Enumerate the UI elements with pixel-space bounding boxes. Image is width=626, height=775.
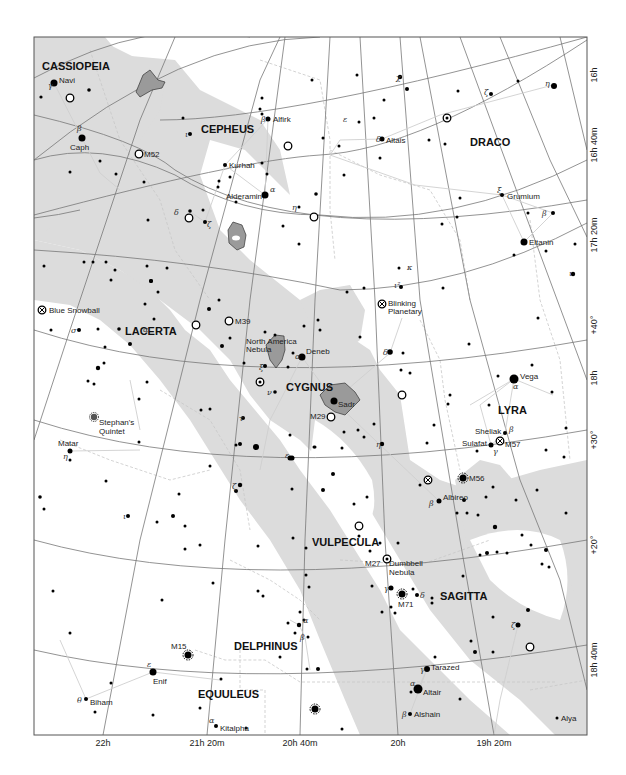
svg-text:ι: ι — [123, 512, 126, 521]
svg-text:22h: 22h — [95, 738, 110, 748]
star-tarazed — [424, 666, 430, 672]
open-cluster-icon — [310, 213, 318, 221]
star-kitalpha — [214, 724, 218, 728]
svg-text:δ: δ — [420, 591, 425, 600]
svg-text:Kurhah: Kurhah — [229, 161, 255, 170]
svg-text:α: α — [295, 352, 301, 361]
label-lacerta: LACERTA — [125, 325, 177, 337]
svg-text:γ: γ — [384, 584, 389, 593]
label-cassiopeia: CASSIOPEIA — [42, 60, 110, 72]
svg-text:18h 40m: 18h 40m — [589, 642, 599, 677]
star-alderamin — [262, 192, 269, 199]
svg-text:ι: ι — [185, 130, 188, 139]
svg-text:Sheliak: Sheliak — [475, 427, 502, 436]
svg-text:16h 40m: 16h 40m — [589, 127, 599, 162]
svg-text:β: β — [401, 710, 407, 719]
star-sadr — [331, 398, 338, 405]
svg-text:Altais: Altais — [386, 136, 406, 145]
svg-text:Nebula: Nebula — [389, 568, 415, 577]
star-alshain — [408, 712, 412, 716]
svg-text:19h 20m: 19h 20m — [476, 738, 511, 748]
svg-text:α: α — [410, 679, 416, 688]
open-cluster-icon — [355, 522, 363, 530]
open-cluster-icon — [192, 321, 200, 329]
svg-text:18h: 18h — [589, 370, 599, 385]
svg-text:η: η — [545, 79, 550, 88]
svg-text:M39: M39 — [235, 317, 251, 326]
svg-text:ξ: ξ — [259, 363, 264, 372]
open-cluster-icon — [526, 643, 534, 651]
svg-text:Deneb: Deneb — [306, 347, 330, 356]
svg-text:Navi: Navi — [59, 76, 75, 85]
svg-text:ε: ε — [343, 115, 347, 124]
svg-text:21h 20m: 21h 20m — [189, 738, 224, 748]
svg-text:β: β — [541, 209, 547, 218]
svg-text:Altair: Altair — [423, 688, 442, 697]
svg-text:ζ: ζ — [511, 621, 516, 630]
svg-text:+40°: +40° — [589, 315, 599, 334]
globular-cluster-icon — [310, 704, 320, 714]
open-cluster-icon — [284, 142, 292, 150]
right-axis-labels: 16h 16h 40m 17h 20m +40° 18h +30° +20° 1… — [589, 67, 599, 677]
svg-text:α: α — [209, 716, 215, 725]
svg-text:γ: γ — [48, 81, 53, 90]
svg-text:M15: M15 — [171, 642, 187, 651]
svg-text:γ: γ — [420, 665, 425, 674]
svg-text:σ: σ — [71, 326, 77, 335]
svg-text:Planetary: Planetary — [388, 307, 422, 316]
blinking-planetary-icon — [378, 300, 386, 308]
open-cluster-icon — [398, 391, 406, 399]
m52-icon — [135, 150, 143, 158]
svg-text:κ: κ — [406, 263, 413, 272]
star-eltanin — [521, 239, 528, 246]
svg-text:η: η — [292, 203, 297, 212]
star-albireo — [437, 499, 442, 504]
svg-text:20h: 20h — [390, 738, 405, 748]
star-matar — [68, 449, 73, 454]
svg-text:ν: ν — [267, 388, 272, 397]
star-alya — [556, 717, 559, 720]
m29-icon — [327, 413, 335, 421]
svg-text:ζ: ζ — [207, 220, 212, 229]
svg-text:Nebula: Nebula — [246, 345, 272, 354]
svg-text:Stephan's: Stephan's — [99, 418, 134, 427]
svg-text:Sadr: Sadr — [338, 400, 355, 409]
m15-icon — [183, 650, 193, 660]
svg-text:Albireo: Albireo — [443, 493, 468, 502]
label-cygnus: CYGNUS — [286, 381, 333, 393]
label-lyra: LYRA — [498, 404, 527, 416]
label-equuleus: EQUULEUS — [198, 688, 259, 700]
svg-text:ε: ε — [285, 451, 289, 460]
svg-text:20h 40m: 20h 40m — [282, 738, 317, 748]
svg-text:ι²: ι² — [394, 281, 400, 290]
svg-text:Biham: Biham — [90, 698, 113, 707]
svg-text:M29: M29 — [310, 412, 326, 421]
svg-text:17h 20m: 17h 20m — [589, 217, 599, 252]
svg-text:β: β — [260, 115, 266, 124]
svg-text:δ: δ — [376, 135, 381, 144]
svg-text:γ: γ — [493, 447, 498, 456]
star-kurhah — [223, 163, 227, 167]
label-draco: DRACO — [470, 136, 511, 148]
star-sheliak — [503, 431, 507, 435]
m39-icon — [225, 317, 233, 325]
m71-icon — [397, 589, 407, 599]
star-caph — [79, 135, 86, 142]
svg-text:α: α — [303, 616, 309, 625]
bottom-axis-labels: 22h 21h 20m 20h 40m 20h 19h 20m — [95, 738, 511, 748]
svg-text:ι: ι — [569, 269, 572, 278]
svg-text:β: β — [508, 425, 514, 434]
label-delphinus: DELPHINUS — [234, 640, 298, 652]
m57-icon — [496, 437, 504, 445]
planetary-nebula-icon — [424, 476, 432, 484]
svg-text:Alderamin: Alderamin — [226, 192, 262, 201]
svg-text:τ: τ — [239, 414, 244, 423]
svg-text:δ: δ — [383, 348, 388, 357]
svg-text:β: β — [76, 124, 82, 133]
svg-text:16h: 16h — [589, 67, 599, 82]
star-alfirk — [266, 117, 271, 122]
svg-text:δ: δ — [174, 208, 179, 217]
svg-text:M56: M56 — [469, 474, 485, 483]
svg-text:M52: M52 — [144, 150, 160, 159]
svg-text:Quintet: Quintet — [99, 427, 126, 436]
